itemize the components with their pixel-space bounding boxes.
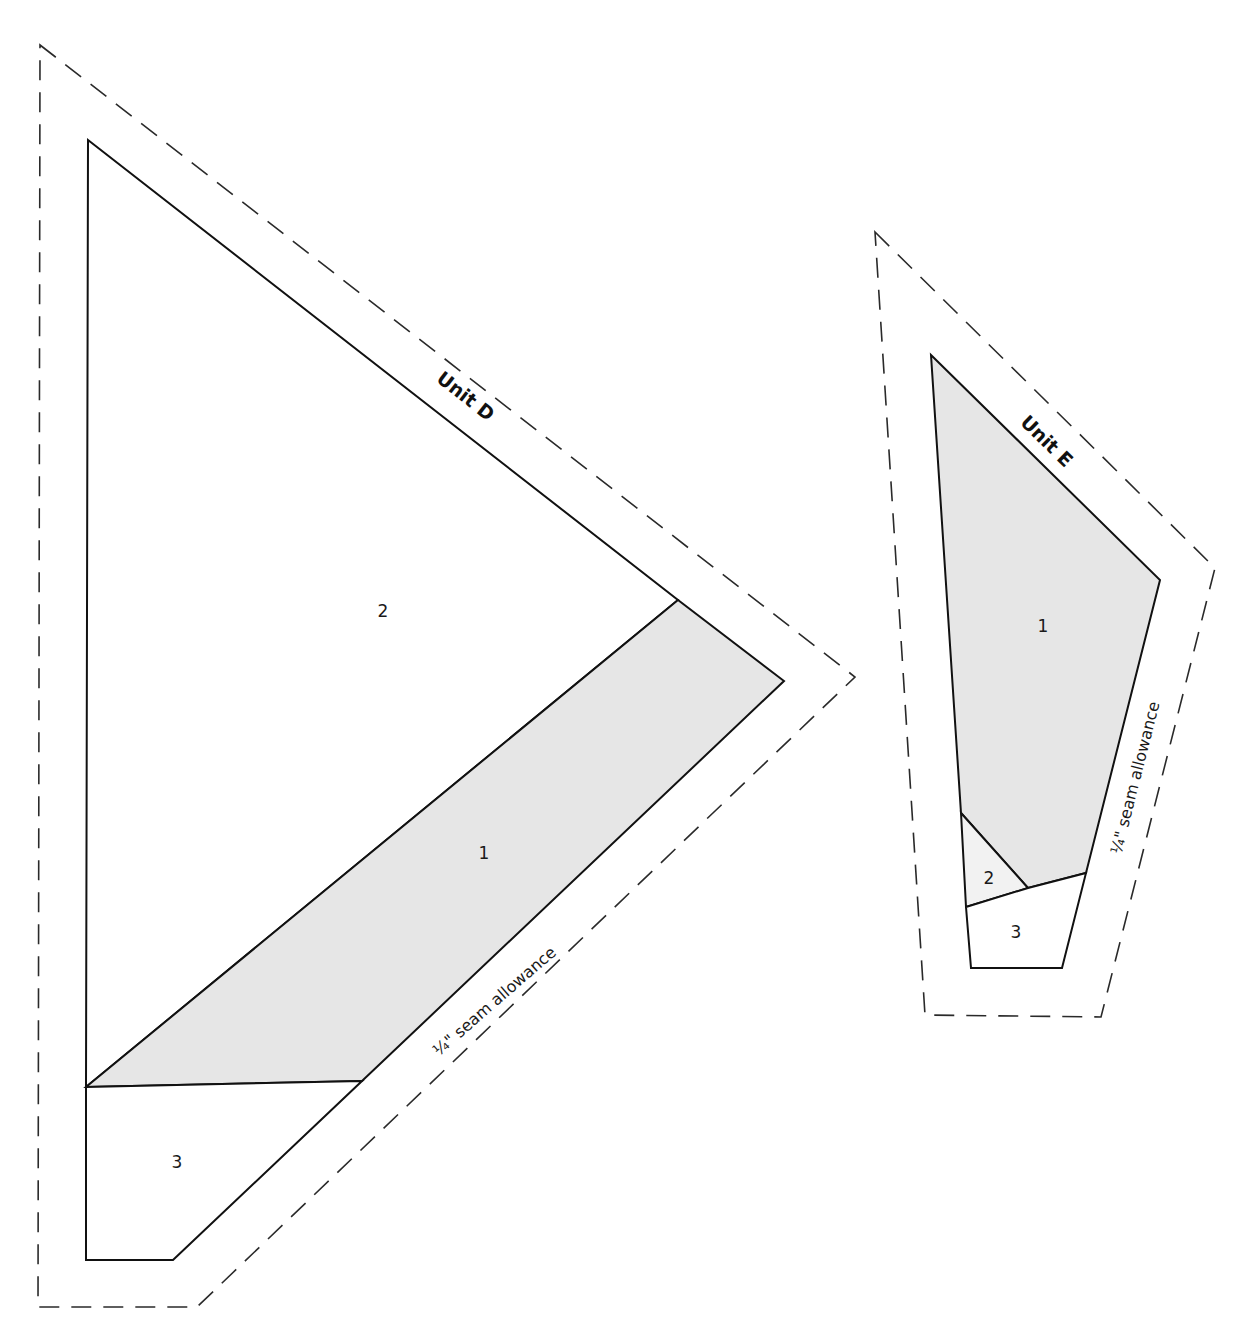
unit-d-piece-3-number: 3 — [172, 1152, 183, 1172]
unit-e-piece-2-number: 2 — [984, 868, 995, 888]
paper-piecing-pattern: 2 1 3 Unit D ¼" seam allowance 1 2 3 Uni… — [0, 0, 1254, 1344]
unit-d-piece-1-number: 1 — [479, 843, 490, 863]
unit-d-piece-2-number: 2 — [378, 601, 389, 621]
unit-d: 2 1 3 Unit D ¼" seam allowance — [38, 45, 855, 1307]
unit-e: 1 2 3 Unit E ¼" seam allowance — [875, 232, 1215, 1017]
unit-d-piece-3 — [86, 1081, 362, 1260]
unit-e-piece-3-number: 3 — [1011, 922, 1022, 942]
unit-e-piece-1-number: 1 — [1038, 616, 1049, 636]
